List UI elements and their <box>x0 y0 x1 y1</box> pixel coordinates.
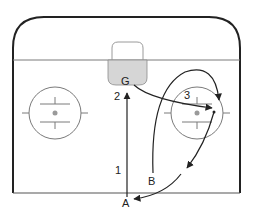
path-pass-down <box>187 112 214 168</box>
path-pass-to-a <box>134 174 181 199</box>
label-step-3: 3 <box>184 89 190 101</box>
puck-point <box>213 111 216 114</box>
path-b-loop <box>153 70 219 173</box>
goal-net <box>112 42 143 60</box>
label-player-a: A <box>122 197 130 209</box>
path-goalie-pass <box>134 85 212 108</box>
right-faceoff-dot <box>195 111 200 116</box>
label-goalie: G <box>121 75 130 87</box>
left-faceoff-dot <box>53 111 58 116</box>
label-player-b: B <box>148 175 155 187</box>
label-step-2: 2 <box>114 90 120 102</box>
label-step-1: 1 <box>115 164 121 176</box>
hockey-drill-diagram: G 2 1 3 B A <box>0 0 256 220</box>
